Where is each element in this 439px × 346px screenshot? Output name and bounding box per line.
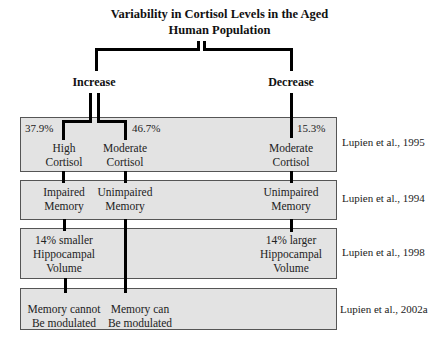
connector-line [63, 219, 66, 231]
diagram-title: Variability in Cortisol Levels in the Ag… [0, 6, 439, 38]
connector-line [124, 219, 127, 293]
connector-line [95, 48, 200, 51]
connector-line [290, 171, 293, 183]
cell-unimpaired-memory-increase: Unimpaired Memory [90, 185, 160, 213]
connector-line [124, 120, 127, 140]
reference-row-3: Lupien et al., 1998 [342, 246, 425, 258]
connector-line [62, 120, 65, 140]
cell-larger-hippocampal-volume: 14% larger Hippocampal Volume [256, 233, 326, 275]
connector-line [95, 48, 98, 71]
connector-line [97, 93, 100, 123]
connector-line [203, 48, 293, 51]
percent-moderate-increase: 46.7% [132, 122, 160, 134]
connector-line [97, 120, 127, 123]
connector-line [290, 93, 293, 138]
connector-line [89, 93, 92, 123]
cell-memory-can-be-modulated: Memory can Be modulated [100, 302, 180, 330]
cell-impaired-memory: Impaired Memory [29, 185, 99, 213]
cell-moderate-cortisol-decrease: Moderate Cortisol [261, 141, 321, 169]
percent-moderate-decrease: 15.3% [297, 122, 325, 134]
title-line-1: Variability in Cortisol Levels in the Ag… [0, 6, 439, 22]
percent-high: 37.9% [25, 122, 53, 134]
cell-high-cortisol: High Cortisol [34, 141, 94, 169]
reference-row-2: Lupien et al., 1994 [342, 192, 425, 204]
title-line-2: Human Population [0, 22, 439, 38]
connector-line [290, 219, 293, 232]
connector-line [290, 48, 293, 71]
category-increase: Increase [49, 75, 139, 90]
reference-row-4: Lupien et al., 2002a [340, 303, 428, 315]
cell-smaller-hippocampal-volume: 14% smaller Hippocampal Volume [29, 233, 99, 275]
connector-line [64, 278, 67, 293]
cell-moderate-cortisol-increase: Moderate Cortisol [95, 141, 155, 169]
connector-line [62, 171, 65, 183]
cell-unimpaired-memory-decrease: Unimpaired Memory [256, 185, 326, 213]
connector-line [124, 171, 127, 183]
reference-row-1: Lupien et al., 1995 [342, 136, 425, 148]
connector-line [62, 120, 92, 123]
cell-memory-cannot-be-modulated: Memory cannot Be modulated [24, 302, 104, 330]
category-decrease: Decrease [246, 75, 336, 90]
